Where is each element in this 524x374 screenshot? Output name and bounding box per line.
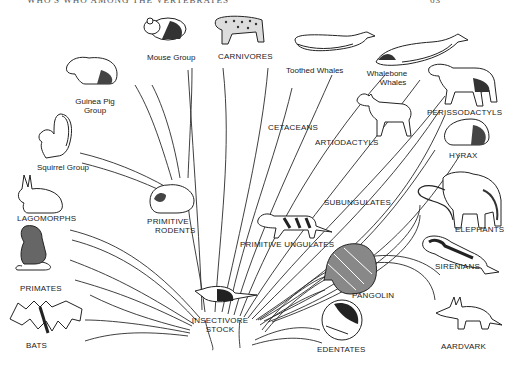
label-guinea-pig-group: Guinea Pig Group: [72, 97, 118, 115]
label-mouse-group: Mouse Group: [147, 53, 195, 62]
aardvark-illustration: [434, 295, 504, 331]
label-hyrax: HYRAX: [449, 151, 478, 160]
label-edentates: EDENTATES: [317, 345, 366, 354]
toothed-whale-illustration: [293, 30, 377, 56]
carnivore-illustration: [212, 12, 268, 46]
label-primitive-rodents: PRIMITIVE RODENTS: [143, 217, 193, 235]
label-toothed-whales: Toothed Whales: [286, 66, 343, 75]
edentate-illustration: [318, 298, 364, 342]
perissodactyl-illustration: [425, 62, 501, 108]
label-insectivore-stock: INSECTIVORE STOCK: [190, 316, 250, 334]
label-whalebone-whales: Whalebone Whales: [362, 69, 412, 87]
hyrax-illustration: [443, 117, 491, 147]
guinea-pig-illustration: [65, 52, 121, 88]
primate-illustration: [14, 224, 54, 272]
label-primates: PRIMATES: [20, 284, 62, 293]
artiodactyl-illustration: [355, 90, 415, 140]
primitive-rodent-illustration: [148, 181, 196, 217]
label-pangolin: PANGOLIN: [352, 291, 394, 300]
label-squirrel-group: Squirrel Group: [37, 163, 89, 172]
rabbit-illustration: [16, 173, 66, 217]
label-artiodactyls: ARTIODACTYLS: [315, 138, 379, 147]
insectivore-illustration: [193, 283, 259, 305]
label-elephants: ELEPHANTS: [455, 225, 504, 234]
label-primitive-ungulates: PRIMITIVE UNGULATES: [240, 240, 334, 249]
label-cetaceans: CETACEANS: [268, 123, 318, 132]
primitive-ungulate-illustration: [256, 210, 336, 240]
label-sirenians: SIRENIANS: [435, 262, 480, 271]
mouse-illustration: [140, 13, 192, 43]
label-lagomorphs: LAGOMORPHS: [17, 214, 76, 223]
bat-illustration: [8, 299, 84, 335]
squirrel-illustration: [36, 112, 76, 162]
label-subungulates: SUBUNGULATES: [324, 198, 391, 207]
label-carnivores: CARNIVORES: [218, 52, 273, 61]
label-bats: BATS: [26, 341, 47, 350]
label-aardvark: AARDVARK: [441, 342, 486, 351]
label-perissodactyls: PERISSODACTYLS: [427, 108, 502, 117]
